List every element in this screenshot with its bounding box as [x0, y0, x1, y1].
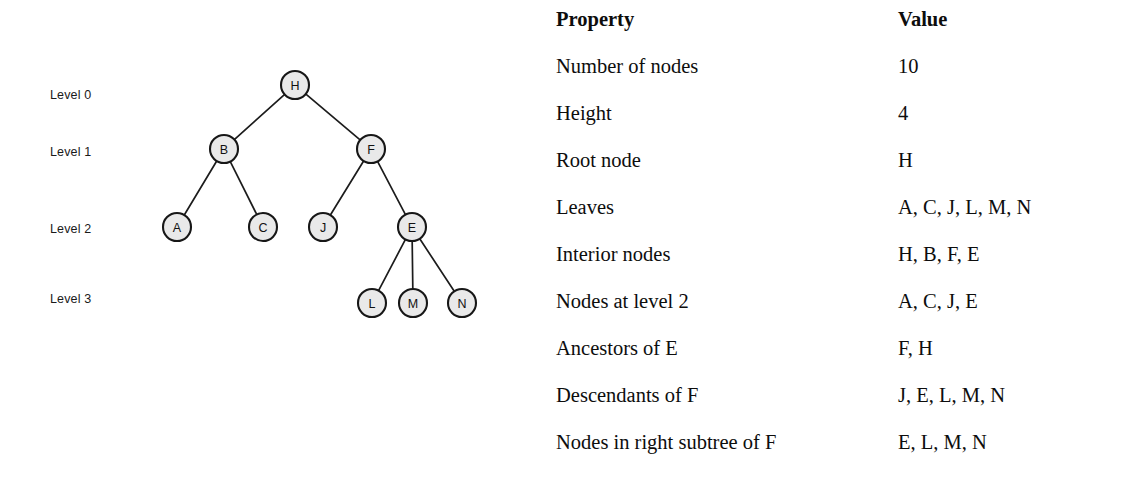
cell-property: Ancestors of E — [556, 337, 898, 360]
table-row: Interior nodesH, B, F, E — [556, 239, 1137, 269]
cell-property: Nodes in right subtree of F — [556, 431, 898, 454]
property-value-table: Property Value Number of nodes10Height4R… — [556, 0, 1137, 487]
tree-edge-layer — [184, 94, 455, 292]
tree-node-a[interactable]: A — [163, 213, 191, 241]
cell-value: H — [898, 149, 1137, 172]
tree-edge-b-c — [230, 161, 257, 215]
tree-node-n[interactable]: N — [448, 289, 476, 317]
tree-diagram-svg: HBFACJELMN — [0, 0, 540, 487]
node-label-c: C — [258, 221, 267, 235]
tree-edge-f-j — [330, 160, 364, 215]
cell-value: J, E, L, M, N — [898, 384, 1137, 407]
node-label-e: E — [408, 221, 416, 235]
cell-property: Descendants of F — [556, 384, 898, 407]
level-label-3: Level 3 — [50, 292, 91, 306]
column-header-value: Value — [898, 8, 1137, 31]
tree-node-j[interactable]: J — [309, 213, 337, 241]
level-label-0: Level 0 — [50, 88, 91, 102]
column-header-property: Property — [556, 8, 898, 31]
cell-property: Height — [556, 102, 898, 125]
node-label-h: H — [290, 79, 299, 93]
tree-node-layer: HBFACJELMN — [163, 71, 476, 317]
cell-value: A, C, J, L, M, N — [898, 196, 1137, 219]
node-label-n: N — [457, 297, 466, 311]
table-header-row: Property Value — [556, 4, 1137, 34]
node-label-m: M — [408, 297, 418, 311]
table-row: LeavesA, C, J, L, M, N — [556, 192, 1137, 222]
cell-value: H, B, F, E — [898, 243, 1137, 266]
tree-edge-e-l — [378, 239, 405, 291]
node-label-j: J — [320, 221, 326, 235]
tree-edge-e-m — [412, 240, 413, 289]
table-row: Nodes at level 2A, C, J, E — [556, 286, 1137, 316]
tree-node-b[interactable]: B — [210, 135, 238, 163]
cell-property: Interior nodes — [556, 243, 898, 266]
tree-node-e[interactable]: E — [398, 213, 426, 241]
tree-edge-e-n — [419, 238, 454, 291]
table-row: Descendants of FJ, E, L, M, N — [556, 380, 1137, 410]
cell-value: E, L, M, N — [898, 431, 1137, 454]
cell-value: 4 — [898, 102, 1137, 125]
tree-edge-h-b — [234, 94, 285, 140]
table-row: Ancestors of EF, H — [556, 333, 1137, 363]
cell-property: Root node — [556, 149, 898, 172]
tree-node-l[interactable]: L — [358, 289, 386, 317]
table-row: Number of nodes10 — [556, 51, 1137, 81]
level-label-1: Level 1 — [50, 145, 91, 159]
cell-property: Number of nodes — [556, 55, 898, 78]
cell-property: Leaves — [556, 196, 898, 219]
cell-value: 10 — [898, 55, 1137, 78]
binary-tree-figure: HBFACJELMN Level 0Level 1Level 2Level 3 — [0, 0, 540, 487]
node-label-b: B — [220, 143, 228, 157]
tree-node-h[interactable]: H — [281, 71, 309, 99]
table-row: Root nodeH — [556, 145, 1137, 175]
tree-node-m[interactable]: M — [399, 289, 427, 317]
cell-value: A, C, J, E — [898, 290, 1137, 313]
node-label-a: A — [173, 221, 182, 235]
node-label-f: F — [367, 143, 375, 157]
level-label-2: Level 2 — [50, 222, 91, 236]
table-row: Nodes in right subtree of FE, L, M, N — [556, 427, 1137, 457]
tree-node-c[interactable]: C — [249, 213, 277, 241]
node-label-l: L — [369, 297, 376, 311]
tree-edge-b-a — [184, 161, 217, 216]
cell-value: F, H — [898, 337, 1137, 360]
tree-edge-h-f — [305, 94, 360, 141]
tree-node-f[interactable]: F — [357, 135, 385, 163]
tree-edge-f-e — [377, 161, 405, 215]
table-row: Height4 — [556, 98, 1137, 128]
cell-property: Nodes at level 2 — [556, 290, 898, 313]
